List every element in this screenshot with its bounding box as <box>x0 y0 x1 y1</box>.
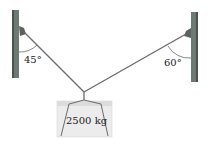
right-pole <box>184 12 198 82</box>
left-angle-arc <box>19 45 37 52</box>
cables <box>24 32 186 100</box>
right-angle-label: 60° <box>164 57 182 68</box>
mass-label: 2500 kg <box>66 115 108 126</box>
diagram-canvas: 45° 60° 2500 kg <box>0 0 212 145</box>
left-angle-label: 45° <box>24 54 42 65</box>
left-pole <box>12 10 26 78</box>
